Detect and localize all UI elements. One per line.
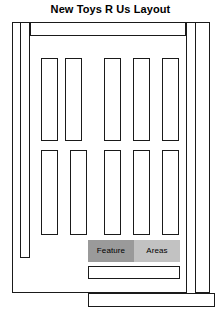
store-floorplan: Feature Areas — [0, 18, 221, 325]
upper-checkout-counter[interactable] — [88, 266, 180, 279]
shelf-upper-5[interactable] — [162, 58, 179, 141]
shelf-lower-2[interactable] — [70, 150, 87, 235]
feature-areas-legend: Feature Areas — [88, 240, 180, 262]
page-title: New Toys R Us Layout — [0, 2, 221, 16]
lower-checkout-counter[interactable] — [88, 293, 215, 307]
shelf-lower-3[interactable] — [104, 150, 121, 235]
shelf-lower-5[interactable] — [162, 150, 179, 235]
shelf-lower-1[interactable] — [41, 150, 58, 235]
shelf-upper-2[interactable] — [65, 58, 82, 141]
legend-cell-feature[interactable]: Feature — [88, 240, 134, 262]
shelf-upper-4[interactable] — [133, 58, 150, 141]
shelf-upper-1[interactable] — [41, 58, 58, 141]
shelf-lower-4[interactable] — [133, 150, 150, 235]
left-perimeter-aisle[interactable] — [20, 22, 30, 258]
shelf-upper-3[interactable] — [104, 58, 121, 141]
legend-cell-areas[interactable]: Areas — [134, 240, 180, 262]
right-perimeter-aisle[interactable] — [186, 22, 196, 299]
screenshot-root: New Toys R Us Layout Feature Areas — [0, 0, 221, 325]
top-horizontal-aisle[interactable] — [30, 22, 186, 36]
